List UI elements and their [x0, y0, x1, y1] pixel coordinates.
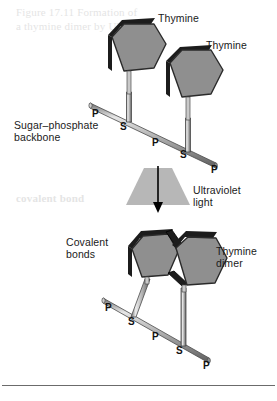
label-thymine-dimer: Thymine dimer: [216, 245, 276, 269]
atom-label-s-3: S: [128, 316, 135, 327]
atom-label-s-4: S: [176, 345, 183, 356]
stem-right-bottom: [181, 288, 186, 346]
label-thymine-top-right: Thymine: [206, 39, 247, 51]
atom-label-p-2: P: [152, 137, 159, 148]
atom-label-p-5: P: [152, 331, 159, 342]
atom-label-s-2: S: [180, 149, 187, 160]
label-covalent-bonds: Covalent bonds: [66, 236, 136, 260]
atom-label-s-1: S: [120, 121, 127, 132]
figure-page: Figure 17.11 Formation of a thymine dime…: [0, 0, 277, 401]
thymine-base-top-right: [166, 45, 223, 120]
thymine-dimer: [128, 229, 227, 292]
stem-right-top: [186, 118, 191, 152]
atom-label-p-4: P: [105, 302, 112, 313]
page-divider-rule: [2, 385, 275, 386]
label-ultraviolet-light: Ultraviolet light: [193, 184, 269, 208]
stem-left-bottom: [131, 279, 150, 317]
stem-left-top: [127, 92, 132, 122]
thymine-base-top-left: [108, 18, 166, 94]
atom-label-p-3: P: [211, 164, 218, 175]
label-sugar-phosphate-backbone: Sugar–phosphate backbone: [14, 119, 124, 143]
atom-label-p-1: P: [92, 108, 99, 119]
atom-label-p-6: P: [203, 360, 210, 371]
label-thymine-top-left: Thymine: [158, 12, 199, 24]
